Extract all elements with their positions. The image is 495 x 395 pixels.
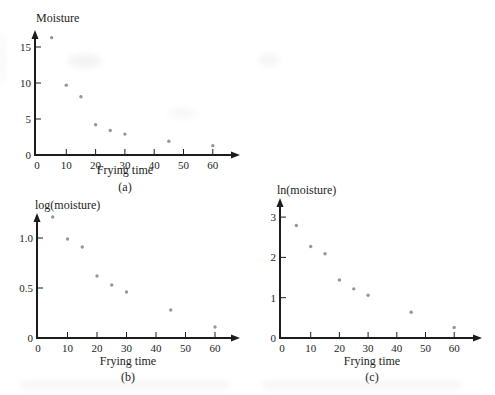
plot-b-y-axis-title: log(moisture) xyxy=(35,199,100,212)
plot-c-y-tick-label: 1 xyxy=(271,292,277,304)
plot-b-x-tick-label: 30 xyxy=(121,342,133,354)
plot-a-data-point xyxy=(50,36,53,39)
plot-c-data-point xyxy=(323,252,326,255)
plot-b-y-origin-label: 0 xyxy=(28,332,34,344)
plot-c-y-tick-label: 2 xyxy=(271,251,277,263)
plot-c-y-origin-label: 0 xyxy=(271,332,277,344)
plot-a-x-axis-arrow xyxy=(231,152,240,159)
plot-b-x-axis-title: Frying time xyxy=(38,355,218,368)
plot-c-x-tick-label: 40 xyxy=(391,342,403,354)
plot-c-y-axis-title: ln(moisture) xyxy=(277,184,336,197)
plot-b-x-tick-label: 60 xyxy=(210,342,222,354)
plot-a-y-tick-label: 15 xyxy=(20,41,32,53)
plot-b-data-point xyxy=(125,290,128,293)
plot-b-data-point xyxy=(169,308,172,311)
plot-c-caption: (c) xyxy=(282,371,462,384)
plot-c-data-point xyxy=(366,294,369,297)
plot-b-y-tick-label: 1.0 xyxy=(19,232,33,244)
plot-c-x-tick-label: 10 xyxy=(305,342,317,354)
plot-c-x-axis-title: Frying time xyxy=(282,355,462,368)
plot-c-data-point xyxy=(352,287,355,290)
plot-a-y-axis-title: Moisture xyxy=(36,12,79,25)
plot-a-data-point xyxy=(123,132,126,135)
plot-c-x-origin-label: 0 xyxy=(279,342,285,354)
plot-c-x-tick-label: 20 xyxy=(334,342,346,354)
plot-a-data-point xyxy=(94,123,97,126)
plot-b-data-point xyxy=(66,237,69,240)
plot-a-data-point xyxy=(109,129,112,132)
plot-a-data-point xyxy=(211,144,214,147)
plot-b-y-axis-arrow xyxy=(34,213,41,222)
plot-c-x-axis-arrow xyxy=(473,335,482,342)
plot-a-x-axis-title: Frying time xyxy=(35,164,215,177)
figure-canvas: 1020304050600051015102030405060000.51.01… xyxy=(0,0,495,395)
plot-b-x-origin-label: 0 xyxy=(35,342,41,354)
plot-b-x-tick-label: 10 xyxy=(62,342,74,354)
plot-b-y-tick-label: 0.5 xyxy=(19,282,33,294)
plot-a-caption: (a) xyxy=(35,181,215,194)
plot-b-data-point xyxy=(81,245,84,248)
plot-c-data-point xyxy=(338,278,341,281)
plot-a-y-origin-label: 0 xyxy=(26,149,32,161)
plot-b-x-tick-label: 40 xyxy=(151,342,163,354)
plot-b-x-tick-label: 20 xyxy=(92,342,104,354)
plot-b-data-point xyxy=(213,325,216,328)
plot-a-data-point xyxy=(167,140,170,143)
plot-a-y-tick-label: 5 xyxy=(26,113,32,125)
plot-b-x-tick-label: 50 xyxy=(180,342,192,354)
plot-c-x-tick-label: 50 xyxy=(420,342,432,354)
plot-b-x-axis-arrow xyxy=(231,335,240,342)
plot-a-y-axis-arrow xyxy=(32,30,39,39)
plot-c-x-tick-label: 30 xyxy=(363,342,375,354)
plot-a-y-tick-label: 10 xyxy=(20,77,32,89)
plot-c-y-tick-label: 3 xyxy=(271,211,277,223)
plot-b-data-point xyxy=(110,283,113,286)
plot-a-data-point xyxy=(65,83,68,86)
plot-c-data-point xyxy=(309,245,312,248)
plot-a-data-point xyxy=(79,95,82,98)
plot-b-caption: (b) xyxy=(38,371,218,384)
plot-c-data-point xyxy=(453,326,456,329)
plot-c-y-axis-arrow xyxy=(277,198,284,207)
plot-c-data-point xyxy=(409,311,412,314)
plot-c-x-tick-label: 60 xyxy=(449,342,461,354)
plot-b-data-point xyxy=(51,215,54,218)
plot-c-data-point xyxy=(295,224,298,227)
plot-b-data-point xyxy=(95,274,98,277)
